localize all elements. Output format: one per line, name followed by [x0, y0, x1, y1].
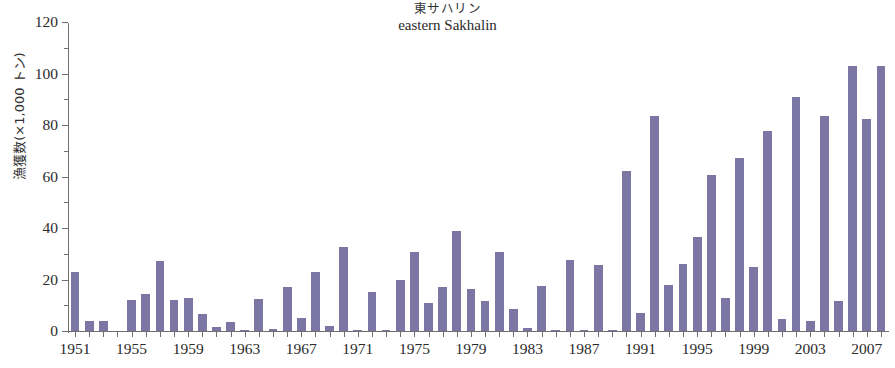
x-tick-label: 1991 [625, 340, 656, 358]
x-tick [245, 332, 246, 337]
y-tick-major: 60 [62, 177, 68, 178]
bar [693, 237, 702, 331]
bar [622, 171, 631, 331]
plot-area: 020406080100120 195119551959196319671971… [68, 23, 888, 332]
x-tick [556, 332, 557, 337]
bar [735, 158, 744, 331]
bar [127, 300, 136, 331]
x-tick [259, 332, 260, 337]
x-tick [584, 332, 585, 337]
x-tick-label: 1987 [569, 340, 600, 358]
bar [198, 314, 207, 331]
bar [368, 292, 377, 331]
bar [877, 66, 886, 331]
bar [410, 252, 419, 331]
bar [85, 321, 94, 331]
y-tick-minor [64, 202, 68, 203]
x-tick [754, 332, 755, 337]
x-tick [146, 332, 147, 337]
y-tick-minor [64, 48, 68, 49]
y-tick-label: 20 [43, 271, 59, 289]
x-tick [740, 332, 741, 337]
bar [848, 66, 857, 331]
bar [749, 267, 758, 331]
bar [862, 119, 871, 331]
x-tick [513, 332, 514, 337]
bar [523, 328, 532, 331]
bar [99, 321, 108, 331]
bar [353, 330, 362, 331]
bar [71, 272, 80, 331]
x-tick [414, 332, 415, 337]
bar [269, 329, 278, 331]
bar [452, 231, 461, 331]
y-tick-label: 100 [35, 65, 58, 83]
x-tick [457, 332, 458, 337]
x-tick [655, 332, 656, 337]
x-tick-label: 1955 [116, 340, 147, 358]
x-tick [273, 332, 274, 337]
x-tick [527, 332, 528, 337]
x-tick [485, 332, 486, 337]
x-tick-label: 1975 [399, 340, 430, 358]
chart-title-japanese: 東サハリン [0, 2, 895, 16]
bar [297, 318, 306, 331]
x-tick [725, 332, 726, 337]
x-tick [386, 332, 387, 337]
x-tick [853, 332, 854, 337]
bar [240, 330, 249, 331]
bar [707, 175, 716, 331]
bar [184, 298, 193, 331]
bar [509, 309, 518, 331]
x-tick-label: 1967 [286, 340, 317, 358]
bar [156, 261, 165, 331]
x-tick [216, 332, 217, 337]
x-tick [881, 332, 882, 337]
bar [283, 287, 292, 331]
x-tick [174, 332, 175, 337]
y-tick-minor [64, 254, 68, 255]
y-tick-major: 80 [62, 125, 68, 126]
bar [778, 319, 787, 331]
x-tick [132, 332, 133, 337]
x-tick [570, 332, 571, 337]
y-tick-label: 120 [35, 13, 58, 31]
x-tick [301, 332, 302, 337]
bar [254, 299, 263, 331]
bar [212, 327, 221, 331]
x-tick-label: 1999 [738, 340, 769, 358]
bar [580, 330, 589, 331]
bar [537, 286, 546, 331]
x-tick [867, 332, 868, 337]
y-axis-line [68, 23, 69, 333]
bar [608, 330, 617, 331]
chart-figure: 東サハリン eastern Sakhalin 漁獲数(×1,000 トン) 02… [0, 0, 895, 368]
x-tick [429, 332, 430, 337]
bar [721, 298, 730, 331]
y-tick-major: 100 [62, 74, 68, 75]
bar [792, 97, 801, 331]
x-tick [839, 332, 840, 337]
x-tick [315, 332, 316, 337]
x-tick [103, 332, 104, 337]
bar [396, 280, 405, 332]
bar [339, 247, 348, 331]
x-tick [598, 332, 599, 337]
bar [594, 265, 603, 331]
x-tick [287, 332, 288, 337]
bar [834, 301, 843, 331]
x-tick [782, 332, 783, 337]
bar [311, 272, 320, 331]
bar [551, 330, 560, 331]
x-tick-label: 2003 [795, 340, 826, 358]
x-tick-label: 1959 [173, 340, 204, 358]
y-tick-major: 40 [62, 228, 68, 229]
x-tick [824, 332, 825, 337]
bar [820, 116, 829, 331]
bar [763, 131, 772, 331]
x-tick-label: 1963 [229, 340, 260, 358]
x-tick [75, 332, 76, 337]
y-tick-label: 60 [43, 168, 59, 186]
x-tick [202, 332, 203, 337]
x-tick [669, 332, 670, 337]
